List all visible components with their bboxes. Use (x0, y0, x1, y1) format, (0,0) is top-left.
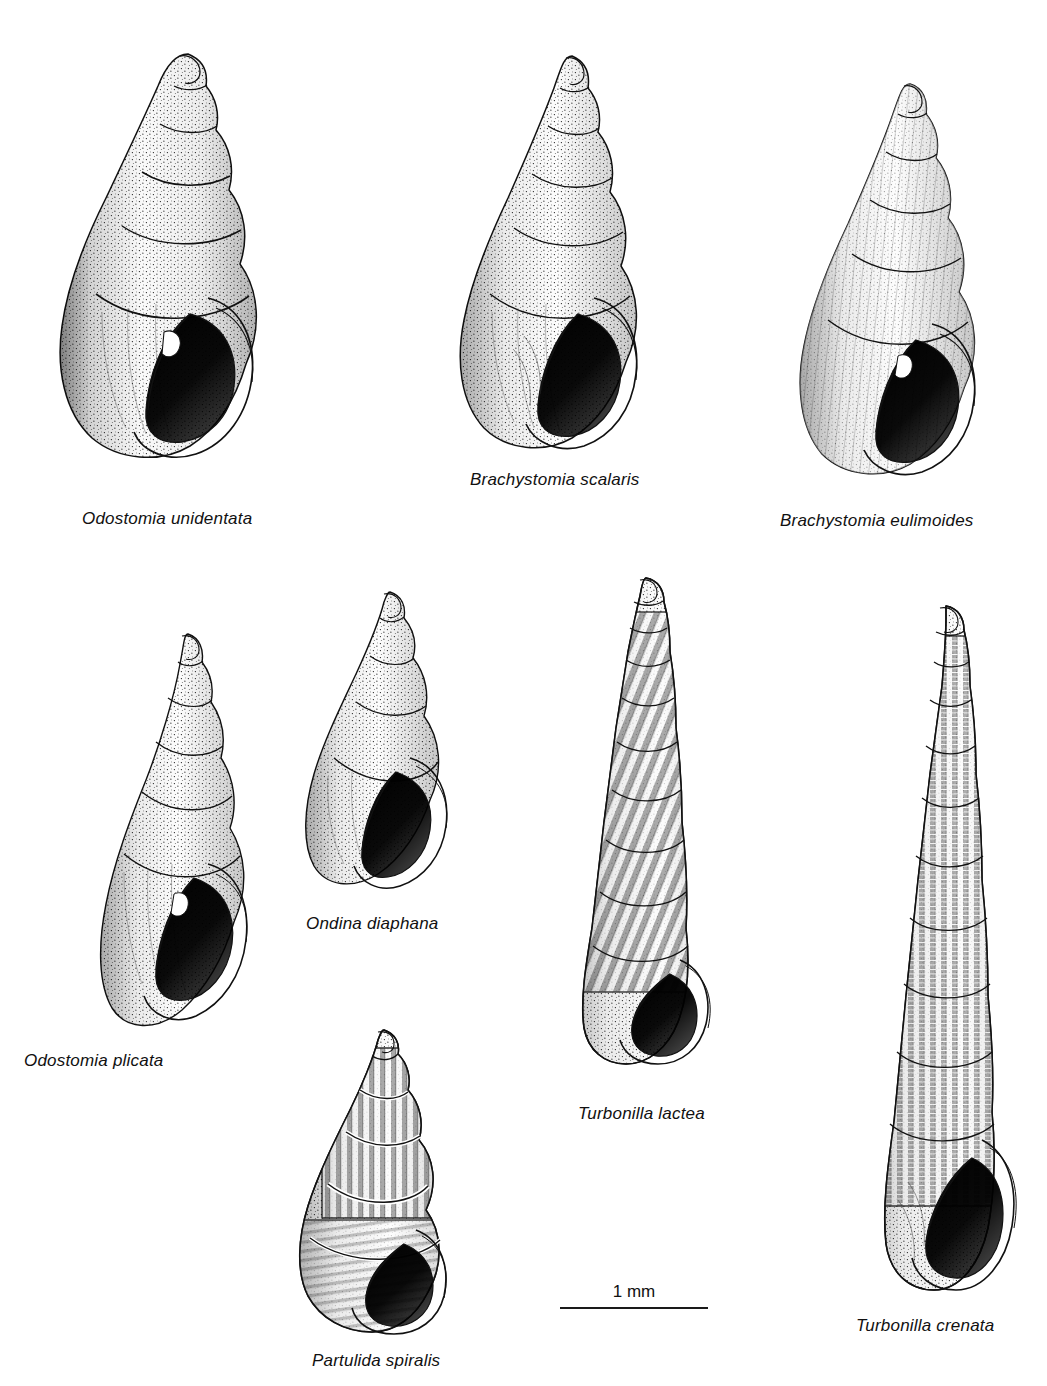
figure-brachystomia-eulimoides (792, 78, 1014, 478)
shell-drawing-brachystomia-eulimoides (792, 78, 1014, 478)
shell-drawing-odostomia-plicata (96, 628, 276, 1048)
figure-odostomia-plicata (96, 628, 276, 1048)
shell-drawing-ondina-diaphana (302, 586, 460, 898)
figure-ondina-diaphana (302, 586, 460, 898)
figure-brachystomia-scalaris (448, 50, 678, 450)
illustration-plate: Odostomia unidentata (0, 0, 1047, 1386)
caption-brachystomia-eulimoides: Brachystomia eulimoides (780, 512, 974, 529)
caption-partulida-spiralis: Partulida spiralis (312, 1352, 440, 1369)
figure-turbonilla-crenata (864, 600, 1036, 1300)
shell-drawing-turbonilla-crenata (864, 600, 1036, 1300)
scale-bar-line (560, 1307, 708, 1309)
scale-bar: 1 mm (560, 1283, 708, 1309)
figure-partulida-spiralis (292, 1024, 472, 1336)
caption-turbonilla-lactea: Turbonilla lactea (578, 1105, 705, 1122)
caption-ondina-diaphana: Ondina diaphana (306, 915, 439, 932)
caption-odostomia-unidentata: Odostomia unidentata (82, 510, 252, 527)
shell-drawing-brachystomia-scalaris (448, 50, 678, 450)
caption-odostomia-plicata: Odostomia plicata (24, 1052, 163, 1069)
caption-brachystomia-scalaris: Brachystomia scalaris (470, 471, 640, 488)
shell-drawing-turbonilla-lactea (572, 572, 730, 1072)
figure-turbonilla-lactea (572, 572, 730, 1072)
scale-bar-label: 1 mm (560, 1283, 708, 1300)
shell-drawing-partulida-spiralis (292, 1024, 472, 1336)
figure-odostomia-unidentata (40, 46, 300, 476)
caption-turbonilla-crenata: Turbonilla crenata (856, 1317, 994, 1334)
shell-drawing-odostomia-unidentata (40, 46, 300, 476)
